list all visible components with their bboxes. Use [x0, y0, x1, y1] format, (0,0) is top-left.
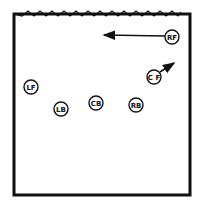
player-lf: LF: [24, 80, 38, 94]
player-rb: RB: [129, 98, 143, 112]
player-rf: RF: [165, 30, 179, 44]
player-cf: C F: [147, 70, 161, 84]
player-lb: LB: [54, 102, 68, 116]
cf-movement-arrow: [160, 63, 174, 72]
player-label: C F: [148, 74, 161, 82]
player-label: LB: [56, 106, 66, 114]
player-label: RF: [167, 34, 177, 42]
rf-movement-arrow: [104, 35, 165, 36]
player-label: CB: [91, 100, 101, 108]
player-label: RB: [131, 102, 142, 110]
player-label: LF: [26, 84, 35, 92]
volleyball-court-diagram: RF C F LF LB CB RB: [0, 0, 199, 203]
player-cb: CB: [89, 96, 103, 110]
